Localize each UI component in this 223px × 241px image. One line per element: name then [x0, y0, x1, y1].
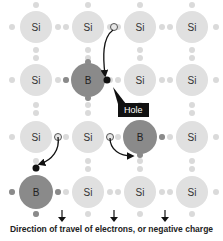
- curved-arrow-icon: [104, 30, 113, 75]
- down-arrow-icon: [110, 210, 118, 222]
- curved-arrow-icon: [110, 138, 132, 156]
- down-arrow-icon: [161, 210, 169, 222]
- electron-movement-arrows: [0, 0, 223, 241]
- hole-pointer-icon: [113, 87, 126, 104]
- down-arrow-icon: [58, 210, 66, 222]
- hole-label: Hole: [118, 103, 149, 117]
- silicon-boron-lattice-diagram: SiSiSiSiSiBSiSiSiSiBSiBSiSiSi Hole Direc…: [0, 0, 223, 241]
- diagram-caption: Direction of travel of electrons, or neg…: [0, 224, 223, 234]
- curved-arrow-icon: [40, 137, 58, 164]
